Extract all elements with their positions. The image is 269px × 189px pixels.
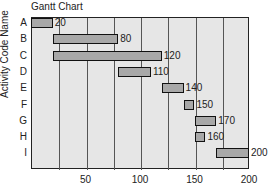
task-end-label: 20 xyxy=(55,18,66,28)
x-tick-label: 200 xyxy=(241,174,258,185)
gridline xyxy=(223,18,224,170)
task-bar-a xyxy=(31,18,53,28)
y-tick-label: E xyxy=(19,83,27,93)
task-bar-h xyxy=(195,132,206,142)
y-tick-label: C xyxy=(19,51,27,61)
y-tick-label: F xyxy=(19,100,27,110)
task-end-label: 170 xyxy=(218,116,235,126)
y-tick-label: B xyxy=(19,34,27,44)
gridline xyxy=(196,18,197,170)
y-tick-label: H xyxy=(19,132,27,142)
x-tick-label: 100 xyxy=(132,174,149,185)
task-end-label: 200 xyxy=(251,148,268,158)
task-end-label: 150 xyxy=(197,100,214,110)
task-end-label: 110 xyxy=(153,67,169,77)
y-tick-label: A xyxy=(19,18,27,28)
y-tick-label: D xyxy=(19,67,27,77)
y-tick-label: I xyxy=(19,148,27,158)
gantt-plot: Hours 20A80B120C110D140E150F170G160H200I… xyxy=(31,17,249,187)
y-tick-label: G xyxy=(19,116,27,126)
task-bar-c xyxy=(53,51,162,61)
task-bar-i xyxy=(216,148,249,158)
chart-title: Gantt Chart xyxy=(31,1,83,12)
task-end-label: 120 xyxy=(164,51,181,61)
task-end-label: 140 xyxy=(186,83,203,93)
task-end-label: 80 xyxy=(120,34,131,44)
task-bar-e xyxy=(162,83,184,93)
task-bar-d xyxy=(118,67,151,77)
task-end-label: 160 xyxy=(207,132,224,142)
gridline xyxy=(168,18,169,170)
task-bar-g xyxy=(195,116,217,126)
task-bar-f xyxy=(184,100,195,110)
y-axis-label: Activity Code Name xyxy=(0,10,10,98)
gridline xyxy=(141,18,142,170)
x-tick-label: 150 xyxy=(186,174,203,185)
x-tick-label: 50 xyxy=(80,174,91,185)
task-bar-b xyxy=(53,34,118,44)
